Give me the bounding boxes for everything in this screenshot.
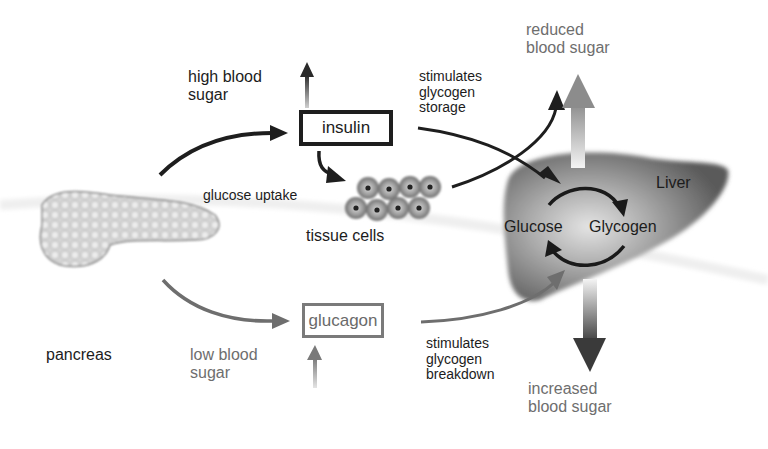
low-blood-sugar-line-2: sugar xyxy=(190,364,258,382)
high-blood-sugar-label: high blood sugar xyxy=(188,68,262,104)
stimulates-glycogen-breakdown-label: stimulates glycogen breakdown xyxy=(426,336,495,383)
high-blood-sugar-line-1: high blood xyxy=(188,68,262,86)
high-blood-sugar-line-2: sugar xyxy=(188,86,262,104)
increased-blood-sugar-arrow xyxy=(573,279,606,372)
liver-label: Liver xyxy=(656,174,691,192)
breakdown-line-3: breakdown xyxy=(426,367,495,383)
reduced-line-1: reduced xyxy=(526,21,610,39)
tissue-cells-label: tissue cells xyxy=(306,227,384,245)
storage-line-1: stimulates xyxy=(419,69,482,85)
increased-line-2: blood sugar xyxy=(528,398,612,416)
glucagon-label: glucagon xyxy=(308,311,377,331)
storage-line-2: glycogen xyxy=(419,85,482,101)
glucose-regulation-diagram: high blood sugar insulin stimulates glyc… xyxy=(0,0,768,449)
breakdown-line-2: glycogen xyxy=(426,352,495,368)
insulin-label: insulin xyxy=(322,118,370,138)
stimulates-glycogen-storage-label: stimulates glycogen storage xyxy=(419,69,482,116)
pancreas-label: pancreas xyxy=(46,346,112,364)
glycogen-label: Glycogen xyxy=(589,218,657,236)
increased-blood-sugar-label: increased blood sugar xyxy=(528,380,612,416)
glucagon-box: glucagon xyxy=(302,303,384,338)
arrow-pancreas-to-insulin xyxy=(160,133,272,175)
increased-line-1: increased xyxy=(528,380,612,398)
glucose-uptake-label: glucose uptake xyxy=(203,188,297,204)
reduced-line-2: blood sugar xyxy=(526,39,610,57)
low-blood-sugar-line-1: low blood xyxy=(190,346,258,364)
arrow-pancreas-to-glucagon xyxy=(163,280,272,321)
glucose-label: Glucose xyxy=(504,218,563,236)
low-blood-sugar-label: low blood sugar xyxy=(190,346,258,382)
reduced-blood-sugar-label: reduced blood sugar xyxy=(526,21,610,57)
insulin-box: insulin xyxy=(299,110,393,146)
tissue-cells-illustration xyxy=(345,176,441,221)
breakdown-line-1: stimulates xyxy=(426,336,495,352)
storage-line-3: storage xyxy=(419,100,482,116)
